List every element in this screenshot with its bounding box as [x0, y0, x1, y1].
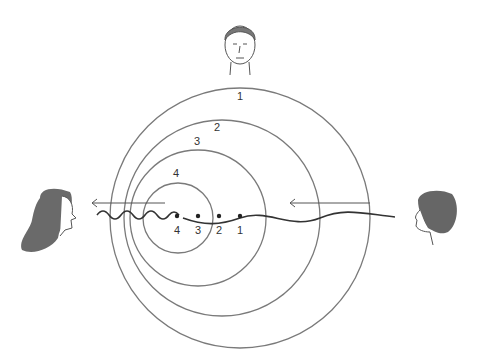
left-observer-face-icon: [21, 189, 76, 252]
position-label-3: 3: [195, 224, 201, 236]
circle-label-4: 4: [173, 167, 179, 179]
wavefront-2: [124, 120, 320, 316]
position-label-4: 4: [174, 224, 180, 236]
top-observer-face-icon: [225, 26, 255, 75]
circle-label-3: 3: [194, 135, 200, 147]
circle-label-1: 1: [237, 90, 243, 102]
wavefront-4: [143, 183, 213, 253]
compressed-wave: [97, 211, 179, 219]
position-label-2: 2: [216, 224, 222, 236]
stretched-wave: [183, 212, 395, 223]
right-observer-face-icon: [416, 191, 457, 245]
position-label-1: 1: [237, 224, 243, 236]
circle-label-2: 2: [214, 121, 220, 133]
doppler-diagram: 1 2 3 4 4 3 2 1: [0, 0, 480, 364]
